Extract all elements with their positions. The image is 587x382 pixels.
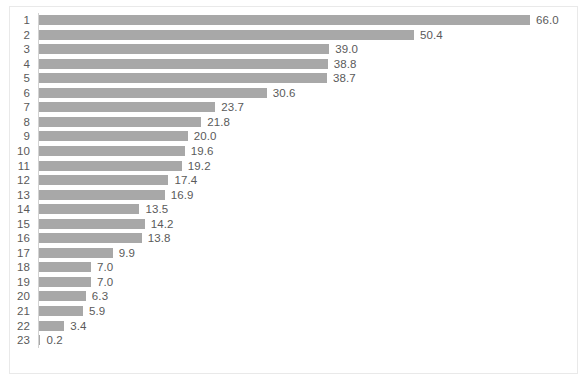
bar-row: 250.4 <box>0 28 587 42</box>
bar-track: 38.8 <box>39 57 587 71</box>
bar-row: 206.3 <box>0 289 587 303</box>
category-label: 2 <box>0 28 30 42</box>
category-label: 4 <box>0 57 30 71</box>
bar <box>39 233 142 243</box>
bar <box>39 175 168 185</box>
bar-row: 179.9 <box>0 246 587 260</box>
category-label: 23 <box>0 333 30 347</box>
bar-row: 1514.2 <box>0 217 587 231</box>
bar-row: 1413.5 <box>0 202 587 216</box>
category-label: 8 <box>0 115 30 129</box>
bar-track: 7.0 <box>39 275 587 289</box>
category-label: 12 <box>0 173 30 187</box>
bar <box>39 15 530 25</box>
category-label: 19 <box>0 275 30 289</box>
bar-value-label: 38.7 <box>333 71 356 85</box>
bar-value-label: 20.0 <box>194 129 217 143</box>
bar-value-label: 30.6 <box>273 86 296 100</box>
bar-value-label: 16.9 <box>171 188 194 202</box>
bar-value-label: 9.9 <box>119 246 135 260</box>
bar-track: 14.2 <box>39 217 587 231</box>
bar-value-label: 66.0 <box>536 13 559 27</box>
bar-track: 5.9 <box>39 304 587 318</box>
bar-row: 1316.9 <box>0 188 587 202</box>
bar-track: 9.9 <box>39 246 587 260</box>
category-label: 20 <box>0 289 30 303</box>
bar-track: 7.0 <box>39 260 587 274</box>
category-label: 9 <box>0 129 30 143</box>
bar-row: 339.0 <box>0 42 587 56</box>
bar-value-label: 3.4 <box>70 319 86 333</box>
bar-value-label: 38.8 <box>334 57 357 71</box>
bar-value-label: 19.6 <box>191 144 214 158</box>
bar-value-label: 50.4 <box>420 28 443 42</box>
bar <box>39 131 188 141</box>
bar-row: 630.6 <box>0 86 587 100</box>
bar <box>39 204 139 214</box>
bar-value-label: 7.0 <box>97 260 113 274</box>
plot-area: 166.0250.4339.0438.8538.7630.6723.7821.8… <box>0 0 587 382</box>
bar-value-label: 19.2 <box>188 159 211 173</box>
bar-row: 538.7 <box>0 71 587 85</box>
bar <box>39 88 267 98</box>
bar <box>39 117 201 127</box>
category-label: 13 <box>0 188 30 202</box>
bar-value-label: 0.2 <box>46 333 62 347</box>
bar-track: 23.7 <box>39 100 587 114</box>
bar-value-label: 13.5 <box>145 202 168 216</box>
bar-value-label: 14.2 <box>151 217 174 231</box>
bar-row: 230.2 <box>0 333 587 347</box>
bar-track: 30.6 <box>39 86 587 100</box>
bar <box>39 262 91 272</box>
category-label: 14 <box>0 202 30 216</box>
bar-row: 166.0 <box>0 13 587 27</box>
bar-value-label: 21.8 <box>207 115 230 129</box>
bar <box>39 190 165 200</box>
bar-row: 920.0 <box>0 129 587 143</box>
bar <box>39 306 83 316</box>
category-label: 17 <box>0 246 30 260</box>
category-label: 15 <box>0 217 30 231</box>
bar-chart-figure: 166.0250.4339.0438.8538.7630.6723.7821.8… <box>0 0 587 382</box>
bar <box>39 335 40 345</box>
bar-row: 197.0 <box>0 275 587 289</box>
category-label: 3 <box>0 42 30 56</box>
bar-row: 187.0 <box>0 260 587 274</box>
bar-track: 6.3 <box>39 289 587 303</box>
bar-value-label: 17.4 <box>174 173 197 187</box>
bar-track: 39.0 <box>39 42 587 56</box>
bar <box>39 73 327 83</box>
bar-row: 1613.8 <box>0 231 587 245</box>
bar <box>39 59 328 69</box>
bar-value-label: 13.8 <box>148 231 171 245</box>
bar-track: 3.4 <box>39 319 587 333</box>
bar <box>39 277 91 287</box>
category-label: 11 <box>0 159 30 173</box>
bar <box>39 291 86 301</box>
bar-track: 16.9 <box>39 188 587 202</box>
category-label: 7 <box>0 100 30 114</box>
bar-track: 19.6 <box>39 144 587 158</box>
bar-value-label: 23.7 <box>221 100 244 114</box>
bar <box>39 161 182 171</box>
bar-row: 1119.2 <box>0 159 587 173</box>
bar-track: 13.5 <box>39 202 587 216</box>
category-label: 10 <box>0 144 30 158</box>
bar-row: 438.8 <box>0 57 587 71</box>
bar-track: 21.8 <box>39 115 587 129</box>
bar-track: 38.7 <box>39 71 587 85</box>
bar-value-label: 5.9 <box>89 304 105 318</box>
category-label: 16 <box>0 231 30 245</box>
bar-value-label: 39.0 <box>335 42 358 56</box>
bar <box>39 248 113 258</box>
bar <box>39 44 329 54</box>
bar-value-label: 6.3 <box>92 289 108 303</box>
bar <box>39 219 145 229</box>
bar <box>39 30 414 40</box>
bar-row: 1217.4 <box>0 173 587 187</box>
category-label: 6 <box>0 86 30 100</box>
bar <box>39 321 64 331</box>
bar-track: 0.2 <box>39 333 587 347</box>
bar-track: 17.4 <box>39 173 587 187</box>
category-label: 18 <box>0 260 30 274</box>
